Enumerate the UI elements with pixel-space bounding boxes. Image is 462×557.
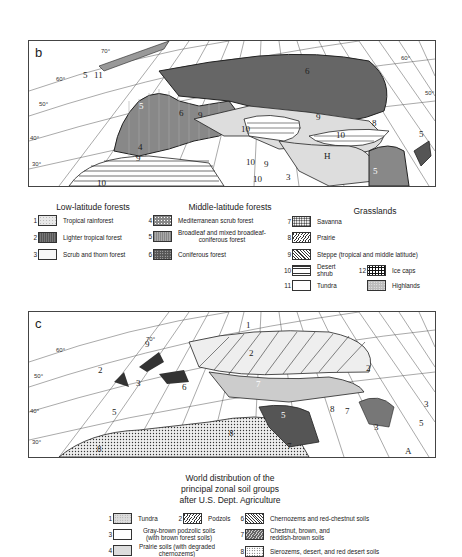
region-label: 7 bbox=[95, 408, 100, 418]
region-label: 5 bbox=[112, 407, 117, 417]
scrub-swatch bbox=[38, 249, 57, 260]
tundra-swatch bbox=[292, 280, 311, 291]
sierozems-swatch bbox=[245, 546, 264, 557]
region-label: 8 bbox=[97, 444, 102, 454]
latitude-label: 40° bbox=[30, 135, 39, 141]
region-label: 3 bbox=[424, 399, 429, 409]
legend-item-prairie: 8Prairie bbox=[284, 232, 335, 243]
region-label: 7 bbox=[256, 379, 261, 389]
gray-brown-swatch bbox=[113, 529, 132, 540]
prairie-swatch bbox=[292, 232, 311, 243]
legend-item-lighter-tropical-forest: 2Lighter tropical forest bbox=[30, 232, 122, 243]
region-label: 5 bbox=[281, 410, 286, 420]
region-label: 5 bbox=[419, 129, 424, 139]
region-label: 7 bbox=[345, 406, 350, 416]
latitude-label: 50° bbox=[34, 373, 43, 379]
steppe-swatch bbox=[292, 249, 311, 260]
legend-item-chernozems: 6Chernozems and red-chestnut soils bbox=[237, 513, 369, 524]
legend-item-soil-tundra: 1Tundra bbox=[105, 513, 158, 524]
region-label: 6 bbox=[179, 108, 184, 118]
legend-item-mediterranean-scrub: 4Mediterranean scrub forest bbox=[145, 215, 253, 226]
legend-item-desert-shrub: 10Desert shrub bbox=[284, 263, 341, 277]
region-label: 3 bbox=[136, 378, 141, 388]
savanna-swatch bbox=[292, 216, 311, 227]
latitude-label: 60° bbox=[56, 347, 65, 353]
region-label: 2 bbox=[98, 365, 103, 375]
region-label: 10 bbox=[253, 174, 262, 184]
legend-item-savanna: 7Savanna bbox=[284, 216, 342, 227]
region-label: 8 bbox=[372, 118, 377, 128]
region-label: 6 bbox=[305, 66, 310, 76]
latitude-label: 70° bbox=[101, 48, 110, 54]
region-label: 5 bbox=[419, 418, 424, 428]
latitude-label: 50° bbox=[425, 90, 434, 96]
chernozems-swatch bbox=[245, 513, 264, 524]
legend-item-tundra: 11Tundra bbox=[284, 280, 337, 291]
region-label: 8 bbox=[229, 428, 234, 438]
mediterranean-swatch bbox=[153, 215, 172, 226]
region-label: 3 bbox=[374, 422, 379, 432]
region-label: 5 bbox=[139, 101, 144, 111]
ice-caps-swatch bbox=[367, 265, 386, 276]
region-label: A bbox=[405, 446, 412, 456]
legend-item-ice-caps: 12Ice caps bbox=[357, 265, 415, 276]
latitude-label: 30° bbox=[32, 439, 41, 445]
legend-heading-low-latitude: Low-latitude forests bbox=[38, 202, 148, 212]
region-label: 11 bbox=[94, 70, 103, 80]
legend-item-tropical-rainforest: 1Tropical rainforest bbox=[30, 215, 113, 226]
panel-letter-b: b bbox=[35, 45, 42, 60]
region-label: 6 bbox=[182, 382, 187, 392]
legend-item-prairie-soils: 4Prairie soils (with degraded chernozems… bbox=[105, 543, 216, 557]
vegetation-map-graphic bbox=[29, 41, 435, 186]
region-label: 5 bbox=[83, 70, 88, 80]
highlands-swatch bbox=[367, 280, 386, 291]
coniferous-swatch bbox=[153, 249, 172, 260]
region-label: 2 bbox=[249, 348, 254, 358]
legend-item-gray-brown-podzolic: 3Gray-brown podzolic soils (with brown f… bbox=[105, 527, 220, 541]
legend-item-sierozems: 8Sierozems, desert, and red desert soils bbox=[237, 546, 379, 557]
latitude-label: 60° bbox=[401, 55, 410, 61]
latitude-label: 40° bbox=[30, 408, 39, 414]
region-label: 10 bbox=[246, 157, 255, 167]
legend-heading-middle-latitude: Middle-latitude forests bbox=[165, 202, 295, 212]
legend-item-chestnut-soils: 7Chestnut, brown, and reddish-brown soil… bbox=[237, 527, 342, 541]
region-label: 5 bbox=[373, 166, 378, 176]
legend-item-broadleaf: 5Broadleaf and mixed broadleaf-coniferou… bbox=[145, 229, 266, 243]
legend-item-coniferous-forest: 6Coniferous forest bbox=[145, 249, 226, 260]
region-label: 9 bbox=[264, 159, 269, 169]
lighter-tropical-swatch bbox=[38, 232, 57, 243]
region-label: 10 bbox=[97, 178, 106, 188]
region-label: H bbox=[324, 151, 331, 161]
region-label: 2 bbox=[366, 363, 371, 373]
region-label: 9 bbox=[145, 339, 150, 349]
latitude-label: 30° bbox=[32, 161, 41, 167]
region-label: 9 bbox=[316, 112, 321, 122]
region-label: 3 bbox=[286, 172, 291, 182]
desert-shrub-swatch bbox=[292, 265, 311, 276]
latitude-label: 60° bbox=[56, 76, 65, 82]
region-label: 10 bbox=[336, 130, 345, 140]
podzols-swatch bbox=[183, 513, 202, 524]
region-label: 7 bbox=[287, 441, 292, 451]
legend-heading-grasslands: Grasslands bbox=[330, 206, 420, 216]
region-label: 9 bbox=[198, 110, 203, 120]
region-label: 1 bbox=[246, 320, 251, 330]
legend-item-steppe: 9Steppe (tropical and middle latitude) bbox=[284, 249, 418, 260]
legend-item-scrub-thorn-forest: 3Scrub and thorn forest bbox=[30, 249, 125, 260]
soil-map-caption: World distribution of the principal zona… bbox=[140, 473, 320, 506]
rainforest-swatch bbox=[38, 215, 57, 226]
region-label: 8 bbox=[330, 404, 335, 414]
prairie-soils-swatch bbox=[113, 545, 132, 556]
region-label: 4 bbox=[138, 142, 143, 152]
latitude-label: 50° bbox=[39, 101, 48, 107]
soil-tundra-swatch bbox=[113, 513, 132, 524]
broadleaf-swatch bbox=[153, 231, 172, 242]
legend-item-podzols: 2Podzols bbox=[175, 513, 230, 524]
chestnut-swatch bbox=[245, 529, 264, 540]
vegetation-map: b 70° 60° 50° 40° 30° 60° 50° bbox=[28, 40, 436, 187]
legend-item-highlands: Highlands bbox=[357, 280, 420, 291]
panel-letter-c: c bbox=[35, 316, 42, 331]
region-label: 9 bbox=[136, 153, 141, 163]
region-label: 10 bbox=[241, 124, 250, 134]
